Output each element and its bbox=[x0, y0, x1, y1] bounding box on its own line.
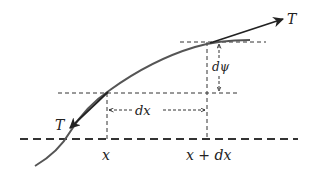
string-element-diagram: T T dx dψ x x + dx bbox=[0, 0, 309, 175]
label-dx: dx bbox=[135, 103, 151, 118]
label-x: x bbox=[102, 147, 110, 163]
label-tension-upper: T bbox=[287, 11, 298, 27]
tangent-arrow-lower bbox=[70, 92, 108, 128]
label-dpsi: dψ bbox=[212, 60, 230, 74]
label-x-plus-dx: x + dx bbox=[186, 147, 231, 163]
label-tension-lower: T bbox=[55, 117, 66, 133]
